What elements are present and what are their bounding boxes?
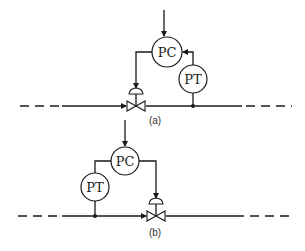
diagram-part-b: PC PT (b): [18, 120, 294, 238]
pressure-controller: PC: [111, 147, 139, 175]
control-valve-icon: [127, 88, 145, 111]
controller-label: PC: [158, 45, 177, 60]
valve-actuator-icon: [129, 88, 143, 94]
control-signal-line: [136, 52, 152, 88]
caption-b: (b): [149, 227, 161, 238]
pressure-control-diagram: PC PT (a) PC: [0, 0, 305, 251]
diagram-part-a: PC PT (a): [20, 10, 292, 126]
pressure-transmitter: PT: [81, 173, 109, 201]
control-signal-line: [139, 161, 156, 198]
pressure-controller: PC: [152, 37, 182, 67]
feedback-signal-line: [183, 52, 193, 65]
caption-a: (a): [149, 115, 161, 126]
transmitter-label: PT: [86, 180, 104, 195]
transmitter-label: PT: [184, 72, 202, 87]
feedback-signal-line: [95, 161, 111, 173]
tap-junction-dot: [93, 214, 97, 218]
pressure-transmitter: PT: [179, 65, 207, 93]
valve-actuator-icon: [149, 198, 163, 204]
tap-junction-dot: [191, 104, 195, 108]
controller-label: PC: [116, 154, 135, 169]
control-valve-icon: [147, 198, 165, 221]
